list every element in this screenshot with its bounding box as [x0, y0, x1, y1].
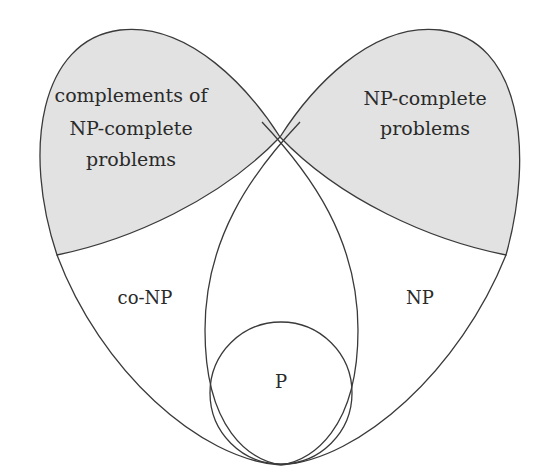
co-np-complete-label-line-2: NP-complete — [69, 117, 192, 139]
co-np-complete-label-line-3: problems — [86, 148, 176, 170]
co-np-complete-region — [40, 29, 280, 255]
np-complete-region — [280, 29, 520, 255]
complexity-classes-diagram: complements of NP-complete problems NP-c… — [0, 0, 560, 474]
np-complete-label-line-1: NP-complete — [363, 87, 486, 109]
np-complete-label-line-2: problems — [380, 117, 470, 139]
p-circle — [210, 322, 352, 464]
p-label: P — [275, 371, 287, 392]
co-np-complete-label-line-1: complements of — [55, 84, 210, 106]
co-np-label: co-NP — [118, 287, 173, 308]
np-label: NP — [406, 287, 434, 308]
